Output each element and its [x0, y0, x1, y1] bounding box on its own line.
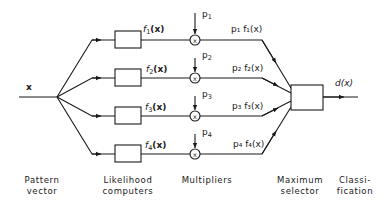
svg-text:f1(x): f1(x): [143, 24, 164, 36]
multiplier-symbol-2: x: [193, 75, 197, 83]
svg-text:computers: computers: [103, 186, 154, 196]
product-labels: p₁ f₁(x) p₂ f₂(x) p₃ f₃(x) p₄ f₄(x): [231, 24, 264, 149]
stage-likelihood-computers: Likelihood: [104, 175, 153, 185]
output-label: d(x): [335, 78, 353, 88]
stage-maximum-selector: Maximum: [277, 175, 323, 185]
svg-text:f2(x): f2(x): [146, 64, 167, 76]
svg-text:p₂ f₂(x): p₂ f₂(x): [232, 63, 263, 73]
likelihood-box-1: [115, 31, 141, 48]
stage-classification: Classi-: [339, 175, 371, 185]
svg-text:p2: p2: [202, 50, 212, 62]
multiplier-symbol-1: x: [193, 37, 197, 45]
input-label: x: [26, 82, 32, 92]
likelihood-box-2: [115, 69, 141, 86]
svg-text:f3(x): f3(x): [145, 102, 166, 114]
multiplier-symbol-4: x: [193, 151, 197, 159]
stage-pattern-vector: Pattern: [25, 175, 60, 185]
svg-text:fication: fication: [337, 186, 373, 196]
likelihood-box-4: [115, 145, 141, 162]
product-lines: [200, 40, 291, 154]
svg-text:p₁ f₁(x): p₁ f₁(x): [231, 24, 262, 34]
likelihood-box-3: [115, 107, 141, 124]
multiplier-symbol-3: x: [193, 113, 197, 121]
stage-captions: Pattern vector Likelihood computers Mult…: [25, 175, 374, 196]
prior-labels: p1 p2 p3 p4: [202, 9, 212, 139]
svg-text:p₄ f₄(x): p₄ f₄(x): [233, 139, 264, 149]
svg-text:p4: p4: [202, 127, 212, 139]
svg-text:p3: p3: [202, 89, 212, 101]
svg-text:p1: p1: [202, 9, 212, 21]
svg-text:f4(x): f4(x): [145, 140, 166, 152]
svg-text:p₃ f₃(x): p₃ f₃(x): [232, 101, 263, 111]
fan-out-lines: [57, 40, 115, 154]
svg-text:selector: selector: [281, 186, 320, 196]
likelihood-labels: f1(x) f2(x) f3(x) f4(x): [143, 24, 167, 152]
bayes-classifier-diagram: x f1(x) f2(x) f3(x) f4(x) p: [0, 0, 388, 204]
svg-text:vector: vector: [27, 186, 58, 196]
likelihood-output-lines: [141, 40, 190, 154]
stage-multipliers: Multipliers: [182, 175, 233, 185]
maximum-selector-box: [291, 85, 323, 110]
likelihood-computers: [115, 31, 141, 162]
